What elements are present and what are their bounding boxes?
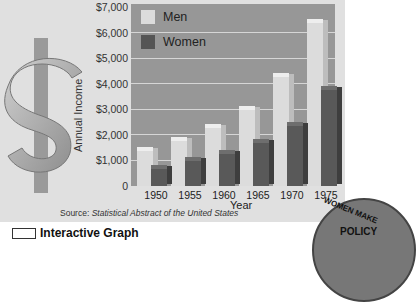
gridline (131, 109, 335, 110)
legend-swatch-men (141, 10, 155, 24)
gridline (131, 58, 335, 59)
bar-women-1970 (287, 125, 303, 186)
bar-women-1955 (185, 160, 201, 186)
chart-panel: Annual Income 0 $1,000 $2,000 $3,000 $4,… (0, 0, 345, 222)
legend-label-men: Men (163, 10, 187, 24)
y-tick: $3,000 (96, 103, 128, 115)
y-tick: $2,000 (96, 129, 128, 141)
badge-text-bottom: POLICY (340, 226, 377, 237)
graph-icon (12, 228, 36, 239)
plot-area: Men Women (131, 4, 335, 186)
legend-label-women: Women (163, 35, 206, 49)
legend-item-women: Women (141, 35, 206, 49)
interactive-graph-title[interactable]: Interactive Graph (12, 226, 139, 240)
y-axis-ticks: 0 $1,000 $2,000 $3,000 $4,000 $5,000 $6,… (90, 0, 128, 200)
source-note: Source: Statistical Abstract of the Unit… (60, 208, 238, 218)
interactive-graph-label: Interactive Graph (40, 226, 139, 240)
x-tick: 1955 (175, 189, 205, 201)
source-prefix: Source: (60, 208, 89, 218)
y-tick: $6,000 (96, 27, 128, 39)
legend-item-men: Men (141, 10, 187, 24)
y-tick: $1,000 (96, 154, 128, 166)
gridline (131, 32, 335, 33)
x-tick: 1950 (141, 189, 171, 201)
bar-women-1950 (151, 168, 167, 186)
y-tick: 0 (122, 180, 128, 192)
y-tick: $5,000 (96, 52, 128, 64)
y-tick: $4,000 (96, 78, 128, 90)
gridline (131, 83, 335, 84)
bar-women-1975 (321, 89, 337, 186)
x-tick: 1970 (277, 189, 307, 201)
legend-swatch-women (141, 35, 155, 49)
y-tick: $7,000 (96, 1, 128, 13)
source-title: Statistical Abstract of the United State… (92, 208, 239, 218)
bar-women-1960 (219, 153, 235, 186)
bar-women-1965 (253, 142, 269, 186)
y-axis-title: Annual Income (72, 52, 86, 152)
